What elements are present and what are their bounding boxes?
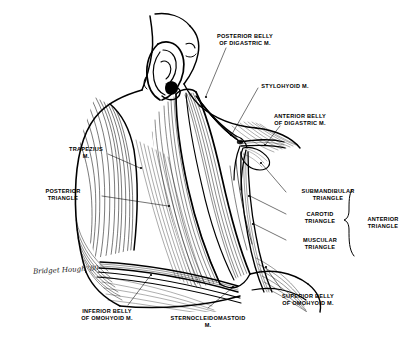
anatomy-figure: POSTERIOR BELLY OF DIGASTRIC M. STYLOHYO… bbox=[0, 0, 413, 345]
label-sternocleidomastoid: STERNOCLEIDOMASTOID M. bbox=[171, 315, 246, 329]
label-inferior-belly-omohyoid: INFERIOR BELLY OF OMOHYOID M. bbox=[81, 308, 133, 322]
label-posterior-belly-digastric: POSTERIOR BELLY OF DIGASTRIC M. bbox=[217, 33, 273, 47]
label-stylohyoid: STYLOHYOID M. bbox=[261, 83, 308, 90]
label-muscular-triangle: MUSCULAR TRIANGLE bbox=[303, 237, 337, 251]
label-trapezius: TRAPEZIUS M. bbox=[69, 146, 103, 160]
label-anterior-triangle: ANTERIOR TRIANGLE bbox=[367, 216, 398, 230]
label-carotid-triangle: CAROTID TRIANGLE bbox=[305, 211, 336, 225]
label-superior-belly-omohyoid: SUPERIOR BELLY OF OMOHYOID M. bbox=[282, 293, 334, 307]
label-anterior-belly-digastric: ANTERIOR BELLY OF DIGASTRIC M. bbox=[274, 113, 326, 127]
label-posterior-triangle: POSTERIOR TRIANGLE bbox=[45, 188, 80, 202]
label-submandibular-triangle: SUBMANDIBULAR TRIANGLE bbox=[302, 188, 355, 202]
neck-anatomy-drawing bbox=[0, 0, 413, 345]
